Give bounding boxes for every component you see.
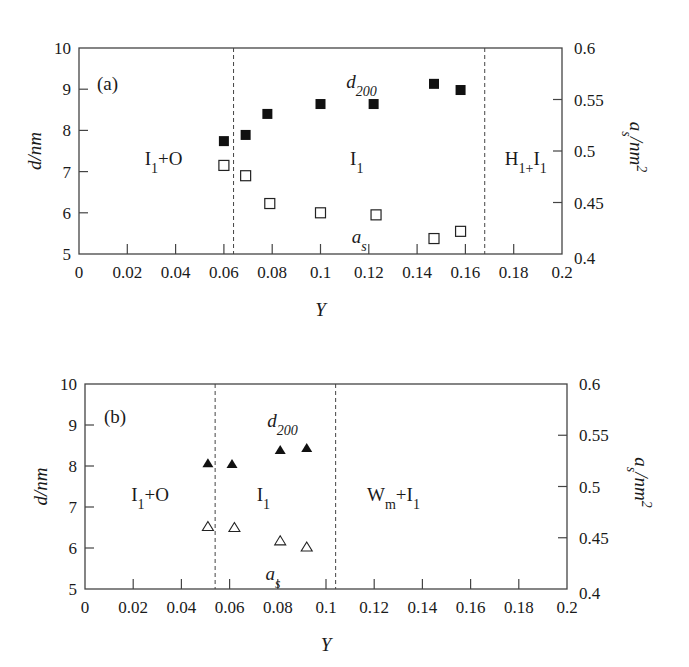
x-tick-label: 0.18	[499, 263, 529, 282]
y-tick-label: 9	[63, 80, 72, 99]
y2-tick-label: 0.45	[579, 529, 609, 548]
y-axis-title: d/nm	[24, 132, 45, 170]
y2-tick-label: 0.45	[574, 194, 604, 213]
x-tick-label: 0	[75, 263, 84, 282]
y-tick-label: 6	[63, 204, 72, 223]
data-point-as	[371, 210, 381, 220]
data-point-as	[229, 523, 240, 532]
chart-panel-a: 00.020.040.060.080.10.120.140.160.180.25…	[24, 39, 650, 320]
y2-tick-label: 0.5	[574, 142, 595, 161]
x-tick-label: 0.02	[112, 263, 142, 282]
data-point-d200	[262, 109, 272, 119]
plot-frame	[79, 48, 562, 254]
data-point-as	[316, 208, 326, 218]
panel-label: (b)	[104, 406, 126, 428]
series-label-d200: d200	[346, 71, 377, 99]
data-point-d200	[316, 99, 326, 109]
data-point-as	[275, 536, 286, 545]
data-point-d200	[456, 85, 466, 95]
chart-panel-b: 00.020.040.060.080.10.120.140.160.180.25…	[30, 375, 655, 655]
x-tick-label: 0.16	[456, 598, 486, 617]
data-point-as	[265, 199, 275, 209]
data-point-d200	[227, 459, 238, 468]
y-tick-label: 10	[60, 375, 77, 394]
data-point-as	[202, 521, 213, 530]
series-label-d200: d200	[267, 410, 298, 438]
phase-region-label: Wm+I1	[367, 484, 420, 512]
data-point-d200	[429, 79, 439, 89]
data-point-d200	[275, 445, 286, 454]
phase-region-label: I1+O	[145, 148, 183, 176]
y-tick-label: 7	[69, 498, 78, 517]
x-tick-label: 0.1	[310, 263, 331, 282]
y-tick-label: 9	[69, 416, 78, 435]
x-tick-label: 0.2	[551, 263, 572, 282]
x-tick-label: 0.02	[118, 598, 148, 617]
data-point-d200	[241, 130, 251, 140]
y-tick-label: 7	[63, 163, 72, 182]
y-tick-label: 10	[54, 39, 71, 58]
data-point-as	[429, 234, 439, 244]
x-axis-title: Y	[321, 634, 334, 655]
y-axis-title: d/nm	[30, 468, 51, 506]
data-point-d200	[219, 136, 229, 146]
figure-canvas: 00.020.040.060.080.10.120.140.160.180.25…	[0, 0, 689, 667]
x-tick-label: 0.12	[354, 263, 384, 282]
phase-region-label: I1	[350, 148, 363, 176]
phase-region-label: I1+O	[131, 484, 169, 512]
panel-label: (a)	[97, 73, 118, 95]
y-tick-label: 8	[69, 457, 78, 476]
x-axis-title: Y	[315, 299, 328, 320]
y2-tick-label: 0.4	[574, 249, 596, 268]
phase-region-label: I1	[257, 484, 270, 512]
y2-tick-label: 0.55	[574, 91, 604, 110]
y2-tick-label: 0.6	[574, 39, 595, 58]
y-tick-label: 8	[63, 121, 72, 140]
series-label-as: as	[352, 226, 368, 254]
x-tick-label: 0.04	[167, 598, 197, 617]
x-tick-label: 0.06	[209, 263, 239, 282]
x-tick-label: 0.12	[359, 598, 389, 617]
x-tick-label: 0.08	[263, 598, 293, 617]
data-point-as	[241, 171, 251, 181]
x-tick-label: 0.04	[161, 263, 191, 282]
x-tick-label: 0.06	[215, 598, 245, 617]
data-point-as	[301, 542, 312, 551]
data-point-d200	[202, 458, 213, 467]
data-point-d200	[301, 443, 312, 452]
y2-tick-label: 0.6	[579, 375, 600, 394]
x-tick-label: 0.2	[556, 598, 577, 617]
data-point-d200	[369, 99, 379, 109]
y2-tick-label: 0.5	[579, 478, 600, 497]
x-tick-label: 0.14	[408, 598, 438, 617]
y2-axis-title: as/nm2	[625, 457, 655, 507]
y-tick-label: 5	[63, 245, 72, 264]
x-tick-label: 0	[81, 598, 90, 617]
phase-region-label: H1+I1	[505, 148, 547, 176]
x-tick-label: 0.18	[504, 598, 534, 617]
y2-axis-title: as/nm2	[620, 122, 650, 172]
y-tick-label: 6	[69, 539, 78, 558]
x-tick-label: 0.1	[315, 598, 336, 617]
x-tick-label: 0.08	[257, 263, 287, 282]
y-tick-label: 5	[69, 580, 78, 599]
y2-tick-label: 0.55	[579, 426, 609, 445]
y2-tick-label: 0.4	[579, 584, 601, 603]
x-tick-label: 0.16	[451, 263, 481, 282]
data-point-as	[456, 226, 466, 236]
series-label-as: as	[266, 563, 282, 591]
x-tick-label: 0.14	[402, 263, 432, 282]
data-point-as	[219, 160, 229, 170]
